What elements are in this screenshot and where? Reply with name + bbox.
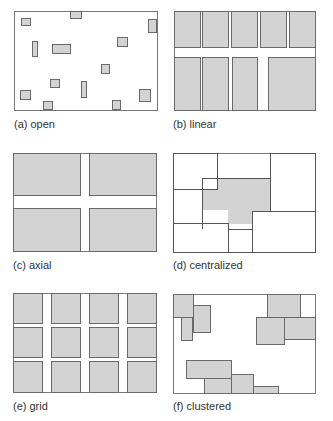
room — [173, 294, 194, 318]
room — [70, 11, 82, 19]
room — [193, 305, 211, 333]
room — [13, 293, 43, 324]
room — [21, 18, 31, 26]
room — [101, 64, 110, 74]
room — [202, 57, 229, 111]
room — [52, 44, 71, 54]
panel-label: (c) axial — [13, 259, 52, 271]
room — [50, 79, 60, 88]
room — [89, 293, 119, 324]
room — [89, 208, 157, 252]
room — [232, 57, 258, 111]
room — [89, 327, 119, 358]
room — [268, 57, 316, 111]
room — [173, 189, 203, 224]
room — [174, 11, 201, 48]
room — [13, 361, 43, 393]
room — [32, 41, 38, 57]
room — [267, 294, 301, 318]
room — [289, 11, 316, 48]
room — [252, 211, 316, 253]
panel-label: (b) linear — [173, 118, 216, 130]
room — [253, 386, 279, 394]
room — [89, 153, 157, 196]
room — [112, 100, 121, 110]
room — [231, 11, 258, 48]
panel-label: (a) open — [14, 118, 55, 130]
room — [81, 81, 87, 98]
panel-label: (d) centralized — [173, 259, 243, 271]
room — [173, 223, 229, 253]
room — [51, 361, 81, 393]
room — [270, 153, 316, 212]
room — [231, 374, 254, 394]
room — [43, 101, 53, 110]
room — [228, 229, 253, 253]
room — [174, 57, 201, 111]
room — [13, 327, 43, 358]
panel-label: (e) grid — [13, 400, 48, 412]
room — [186, 360, 232, 379]
room — [117, 37, 128, 47]
room — [13, 153, 81, 196]
room — [260, 11, 287, 48]
room — [256, 317, 285, 345]
room — [202, 11, 229, 48]
room — [127, 327, 157, 358]
room — [284, 317, 316, 340]
room — [181, 317, 193, 341]
room — [20, 90, 31, 100]
room — [89, 361, 119, 393]
room — [148, 19, 157, 33]
room — [51, 293, 81, 324]
room — [51, 327, 81, 358]
room — [13, 208, 81, 252]
panel-label: (f) clustered — [173, 400, 231, 412]
room — [204, 378, 232, 394]
room — [127, 293, 157, 324]
room — [139, 89, 151, 102]
room — [173, 153, 218, 190]
room — [127, 361, 157, 393]
